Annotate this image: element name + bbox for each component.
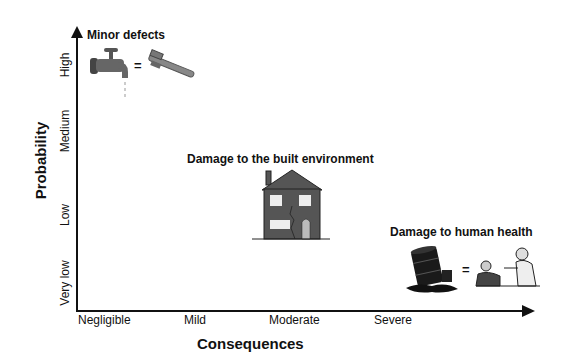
human-health-label: Damage to human health <box>390 225 533 239</box>
y-axis-arrow-icon <box>71 26 83 38</box>
y-tick-medium: Medium <box>58 91 72 171</box>
y-axis-title: Probability <box>32 101 49 221</box>
equals-sign: = <box>134 58 142 73</box>
x-tick-negligible: Negligible <box>78 313 131 327</box>
pipe-wrench-icon <box>145 54 197 80</box>
x-axis-line <box>76 310 524 312</box>
minor-defects-label: Minor defects <box>87 28 165 42</box>
dripping-tap-icon <box>88 48 136 104</box>
spilled-barrel-icon <box>404 244 460 294</box>
x-axis-title: Consequences <box>197 335 304 352</box>
equals-sign: = <box>462 262 470 277</box>
x-axis-arrow-icon <box>522 305 535 317</box>
y-axis-line <box>76 36 78 312</box>
built-environment-label: Damage to the built environment <box>187 152 374 166</box>
x-tick-mild: Mild <box>184 313 206 327</box>
y-tick-very-low: Very low <box>58 243 72 323</box>
cracked-house-icon <box>252 168 332 244</box>
sick-patient-icon <box>474 246 544 290</box>
x-tick-severe: Severe <box>374 313 412 327</box>
x-tick-moderate: Moderate <box>269 313 320 327</box>
